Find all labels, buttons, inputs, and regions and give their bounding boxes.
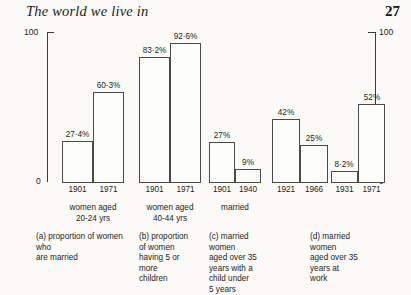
group-caption-c: (c) married women aged over 35 years wit…: [209, 232, 275, 295]
bar-e-1971: [358, 104, 385, 183]
bar-b-1901: [139, 57, 170, 183]
group-subtitle-b: women aged 40-44 yrs: [129, 203, 211, 224]
group-caption-d: (d) married women aged over 35 years at …: [310, 232, 380, 285]
group-caption-b: (b) proportion of women having 5 or more…: [139, 232, 201, 285]
year-label-c-1940: 1940: [234, 185, 262, 194]
left-axis-bottom-label: 0: [36, 176, 41, 186]
year-label-a-1971: 1971: [93, 185, 124, 194]
bar-e-1931: [331, 171, 358, 183]
bar-b-1971: [170, 43, 201, 183]
left-axis-top-label: 100: [24, 27, 38, 37]
bar-value-e-1971: 52%: [350, 93, 394, 102]
year-label-d-1966: 1966: [299, 185, 329, 194]
bar-value-d-1921: 42%: [265, 108, 307, 117]
bar-value-c-1940: 9%: [229, 158, 267, 167]
left-axis-top-tick: [47, 32, 54, 33]
year-label-b-1901: 1901: [139, 185, 170, 194]
bar-value-c-1901: 27%: [203, 131, 241, 140]
bar-d-1921: [272, 119, 300, 183]
year-label-d-1921: 1921: [271, 185, 301, 194]
bar-value-d-1966: 25%: [293, 134, 335, 143]
group-subtitle-c: married: [200, 203, 270, 214]
right-axis-top-tick: [368, 32, 376, 33]
year-label-e-1971: 1971: [357, 185, 386, 194]
year-label-e-1931: 1931: [330, 185, 359, 194]
bar-a-1901: [62, 141, 93, 183]
year-label-c-1901: 1901: [208, 185, 236, 194]
year-label-a-1901: 1901: [62, 185, 93, 194]
bar-value-b-1971: 92·6%: [163, 32, 208, 41]
group-subtitle-a: women aged 20-24 yrs: [52, 203, 134, 224]
bar-a-1971: [93, 92, 124, 183]
bar-c-1940: [235, 169, 261, 183]
left-axis-line: [47, 32, 48, 182]
bar-value-a-1971: 60·3%: [86, 81, 131, 90]
year-label-b-1971: 1971: [170, 185, 201, 194]
right-axis-top-label: 100: [379, 27, 393, 37]
group-caption-a: (a) proportion of women who are married: [36, 232, 136, 264]
